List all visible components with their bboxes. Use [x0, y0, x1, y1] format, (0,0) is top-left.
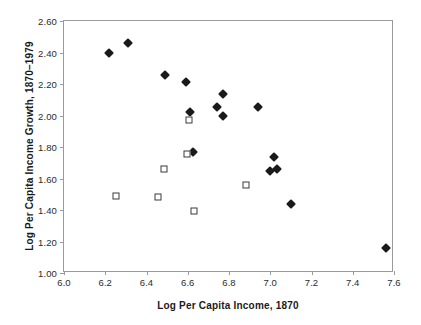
y-tick-mark — [60, 53, 64, 54]
x-tick-mark — [147, 271, 148, 275]
x-tick-label: 6.4 — [140, 277, 154, 288]
x-tick-mark — [105, 271, 106, 275]
data-point-diamond — [212, 102, 222, 112]
data-point-diamond — [269, 152, 279, 162]
y-tick-label: 2.20 — [38, 79, 57, 90]
y-tick-label: 1.40 — [38, 205, 57, 216]
y-tick-mark — [60, 116, 64, 117]
x-tick-label: 7.4 — [346, 277, 360, 288]
data-point-diamond — [181, 77, 191, 87]
data-point-square — [183, 151, 190, 158]
x-tick-label: 6.8 — [222, 277, 236, 288]
data-point-square — [154, 194, 161, 201]
y-tick-label: 1.60 — [38, 173, 57, 184]
data-point-diamond — [218, 111, 228, 121]
data-point-diamond — [160, 70, 170, 80]
x-tick-mark — [394, 271, 395, 275]
y-tick-mark — [60, 84, 64, 85]
x-tick-label: 7.0 — [263, 277, 277, 288]
x-tick-label: 6.0 — [57, 277, 71, 288]
data-point-square — [190, 207, 197, 214]
data-point-diamond — [273, 164, 283, 174]
y-tick-label: 2.40 — [38, 47, 57, 58]
data-point-square — [242, 181, 249, 188]
x-axis-title: Log Per Capita Income, 1870 — [63, 300, 393, 311]
y-tick-mark — [60, 21, 64, 22]
data-point-diamond — [253, 102, 263, 112]
x-tick-label: 7.6 — [387, 277, 401, 288]
y-tick-label: 1.00 — [38, 268, 57, 279]
data-point-diamond — [104, 48, 114, 58]
x-tick-mark — [188, 271, 189, 275]
x-tick-mark — [312, 271, 313, 275]
y-tick-label: 1.80 — [38, 142, 57, 153]
data-point-diamond — [218, 89, 228, 99]
y-tick-label: 2.00 — [38, 110, 57, 121]
y-tick-mark — [60, 179, 64, 180]
data-point-diamond — [123, 38, 133, 48]
data-point-square — [112, 192, 119, 199]
chart-screenshot: 1.001.201.401.601.802.002.202.402.60 6.0… — [0, 0, 421, 325]
x-tick-mark — [353, 271, 354, 275]
data-point-square — [185, 117, 192, 124]
x-tick-label: 6.2 — [98, 277, 112, 288]
x-tick-label: 6.6 — [181, 277, 195, 288]
data-point-square — [161, 166, 168, 173]
y-axis-title: Log Per Capita Income Growth, 1870–1979 — [22, 20, 38, 272]
plot-area: 1.001.201.401.601.802.002.202.402.60 6.0… — [63, 20, 393, 272]
y-tick-mark — [60, 147, 64, 148]
y-tick-label: 2.60 — [38, 16, 57, 27]
y-tick-label: 1.20 — [38, 236, 57, 247]
y-tick-mark — [60, 210, 64, 211]
x-tick-label: 7.2 — [305, 277, 319, 288]
data-point-diamond — [286, 200, 296, 210]
x-tick-mark — [229, 271, 230, 275]
x-tick-mark — [64, 271, 65, 275]
y-tick-mark — [60, 242, 64, 243]
data-point-diamond — [381, 243, 391, 253]
x-tick-mark — [270, 271, 271, 275]
